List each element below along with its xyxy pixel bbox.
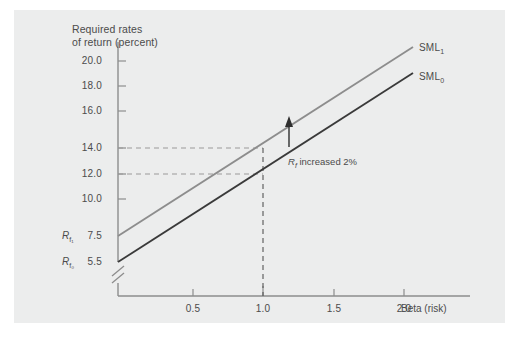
sml0-label-text: SML	[419, 71, 440, 82]
rf0-label: Rf₀	[62, 256, 74, 269]
axis-break-mark	[112, 266, 124, 283]
sml1-label-text: SML	[419, 42, 440, 53]
y-tick-label-12: 12.0	[62, 168, 102, 179]
sml0-line	[118, 73, 413, 262]
rf1-label: Rf₁	[62, 230, 74, 243]
y-axis-title: Required rates of return (percent)	[72, 23, 158, 49]
y-axis-ticks	[118, 61, 126, 199]
sml1-line	[118, 47, 413, 236]
sml1-label-subscript: 1	[440, 48, 444, 55]
shift-arrow-icon	[285, 116, 293, 147]
annotation-text: increased 2%	[297, 156, 357, 167]
series-label-sml1: SML1	[419, 42, 444, 55]
annotation-symbol: R	[288, 156, 295, 167]
x-axis-ticks	[193, 286, 404, 296]
y-tick-label-18: 18.0	[62, 80, 102, 91]
y-tick-label-16: 16.0	[62, 105, 102, 116]
sml0-label-subscript: 0	[440, 77, 444, 84]
x-tick-label-1-0: 1.0	[243, 303, 283, 314]
y-tick-label-10: 10.0	[62, 193, 102, 204]
x-axis-title: Beta (risk)	[401, 303, 447, 314]
series-label-sml0: SML0	[419, 71, 444, 84]
rf1-subscript: f₁	[69, 236, 73, 243]
x-tick-label-0-5: 0.5	[173, 303, 213, 314]
rf-increase-annotation: Rf increased 2%	[288, 156, 357, 169]
chart-figure: Required rates of return (percent) 20.0 …	[0, 0, 519, 341]
x-tick-label-1-5: 1.5	[314, 303, 354, 314]
y-tick-label-14: 14.0	[62, 142, 102, 153]
rf0-subscript: f₀	[69, 262, 74, 269]
y-tick-label-20: 20.0	[62, 55, 102, 66]
